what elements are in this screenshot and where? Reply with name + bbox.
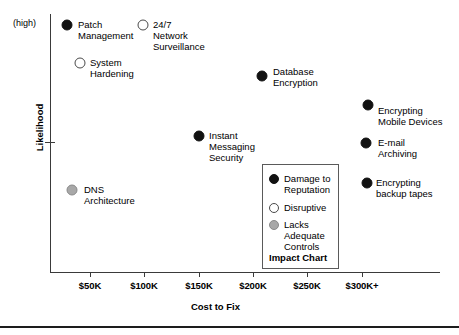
x-axis-tick <box>307 272 308 277</box>
data-point-label: Database Encryption <box>273 66 318 88</box>
legend-entry-label: Disruptive <box>284 202 326 213</box>
legend-swatch-icon <box>269 203 279 213</box>
legend-swatch-icon <box>269 174 279 184</box>
data-point-label: Encrypting Mobile Devices <box>378 105 442 127</box>
x-axis-tick-label: $200K <box>239 280 267 291</box>
y-axis-title: Likelihood <box>34 83 45 173</box>
data-point-label: Instant Messaging Security <box>209 130 255 164</box>
y-axis-tick <box>45 142 55 143</box>
data-point-label: Encrypting backup tapes <box>376 177 433 199</box>
x-axis-tick <box>253 272 254 277</box>
x-axis-line <box>50 272 440 273</box>
data-point-label: DNS Architecture <box>84 184 135 206</box>
legend-entry-label: Damage to Reputation <box>284 173 330 195</box>
x-axis-tick-label: $150K <box>185 280 213 291</box>
x-axis-title: Cost to Fix <box>0 301 459 312</box>
y-axis-high-label: (high) <box>13 18 36 28</box>
legend-entry[interactable]: Disruptive <box>269 202 326 213</box>
data-point-marker[interactable] <box>257 71 268 82</box>
bottom-divider <box>0 326 459 328</box>
data-point-marker[interactable] <box>361 138 372 149</box>
data-point-marker[interactable] <box>138 20 149 31</box>
x-axis-tick-label: $50K <box>79 280 101 291</box>
x-axis-tick-label: $300K+ <box>346 280 379 291</box>
data-point-label: 24/7 Network Surveillance <box>153 19 205 53</box>
data-point-marker[interactable] <box>67 185 78 196</box>
data-point-marker[interactable] <box>362 178 373 189</box>
data-point-label: E-mail Archiving <box>378 137 417 159</box>
data-point-marker[interactable] <box>363 100 374 111</box>
y-axis-line <box>50 14 51 272</box>
data-point-label: System Hardening <box>90 57 134 79</box>
x-axis-title-text: Cost to Fix <box>191 301 240 312</box>
x-axis-tick <box>199 272 200 277</box>
impact-chart: (high) Likelihood $50K$100K$150K$200K$25… <box>0 0 459 335</box>
x-axis-tick <box>90 272 91 277</box>
x-axis-tick-label: $250K <box>293 280 321 291</box>
legend-entry-label: Lacks Adequate Controls <box>284 219 325 252</box>
data-point-label: Patch Management <box>78 19 133 41</box>
x-axis-tick-label: $100K <box>130 280 158 291</box>
x-axis-tick <box>144 272 145 277</box>
x-axis-tick <box>362 272 363 277</box>
data-point-marker[interactable] <box>194 131 205 142</box>
chart-legend: Damage to ReputationDisruptiveLacks Adeq… <box>262 164 339 269</box>
legend-entry[interactable]: Damage to Reputation <box>269 173 330 195</box>
legend-title: Impact Chart <box>269 252 327 263</box>
data-point-marker[interactable] <box>75 58 86 69</box>
legend-swatch-icon <box>269 220 279 230</box>
data-point-marker[interactable] <box>62 20 73 31</box>
legend-entry[interactable]: Lacks Adequate Controls <box>269 219 325 252</box>
